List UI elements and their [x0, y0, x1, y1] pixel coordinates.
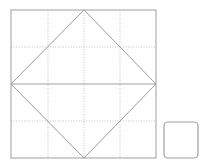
detached-rounded-square [164, 122, 198, 158]
geometric-figure-svg [0, 0, 208, 164]
figure-canvas [0, 0, 208, 164]
